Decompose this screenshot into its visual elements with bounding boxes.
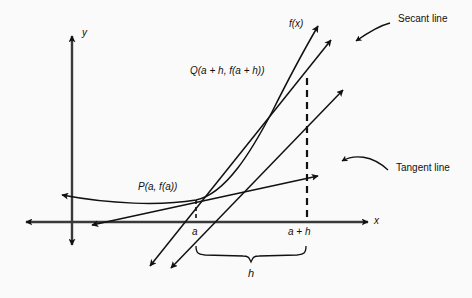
figure-canvas [0, 0, 472, 298]
tangent-line-annotation: Tangent line [396, 163, 450, 173]
x-axis-label: x [374, 216, 379, 226]
secant-line-2 [171, 90, 343, 268]
secant-annotation-arrow [356, 23, 390, 41]
secant-line-annotation: Secant line [398, 14, 447, 24]
y-axis-label: y [82, 28, 87, 38]
function-label: f(x) [289, 19, 303, 29]
interval-brace [196, 246, 306, 262]
interval-h-label: h [248, 268, 254, 279]
tangent-annotation-arrow [342, 157, 388, 170]
calculus-secant-tangent-figure: y x a a + h P(a, f(a)) Q(a + h, f(a + h)… [0, 0, 472, 298]
x-tick-label-a: a [192, 227, 198, 237]
point-p-label: P(a, f(a)) [138, 182, 177, 192]
function-curve [62, 26, 318, 203]
point-q-label: Q(a + h, f(a + h)) [190, 66, 264, 76]
x-tick-label-a-plus-h: a + h [288, 227, 311, 237]
tangent-line [92, 176, 318, 225]
